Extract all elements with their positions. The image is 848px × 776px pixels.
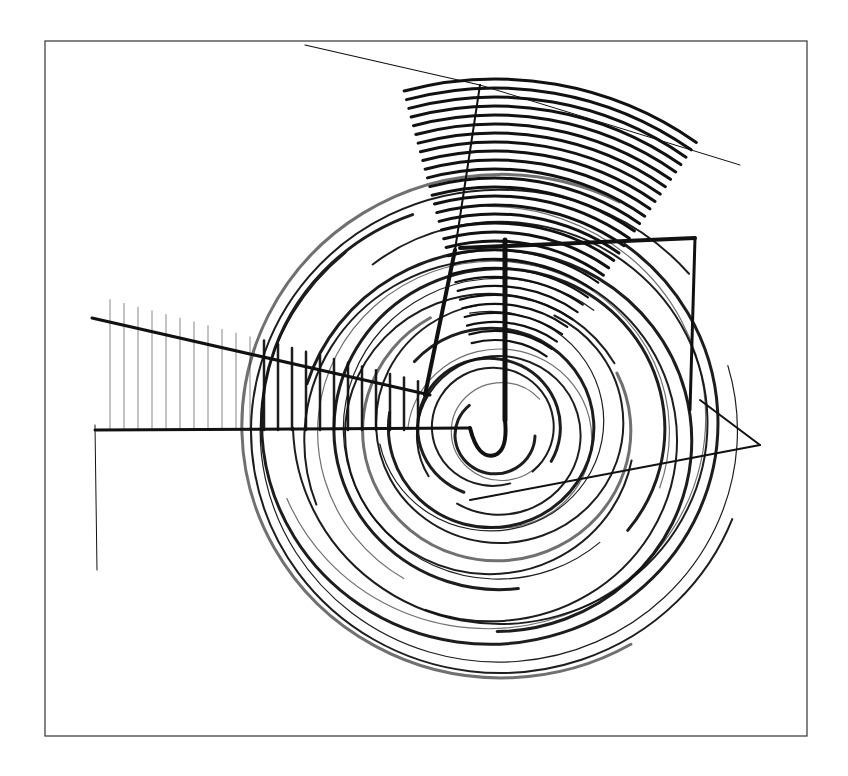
hatched-wedges [110,79,696,430]
abstract-spiral-drawing [0,0,848,776]
